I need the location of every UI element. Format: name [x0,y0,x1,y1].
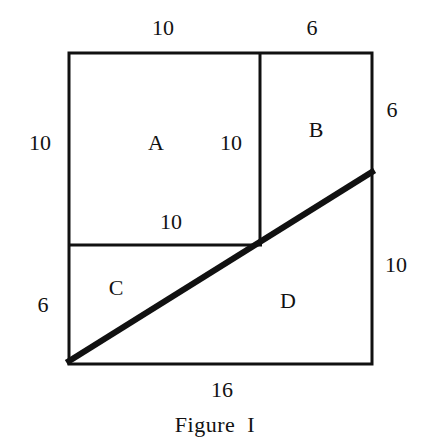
dimension-label-left-lower: 6 [38,294,49,316]
region-label-a: A [148,132,164,154]
dimension-label-right-lower: 10 [385,254,407,276]
dimension-label-right-upper: 6 [387,99,398,121]
figure-container: 10 6 10 6 6 10 10 10 16 A B C D Figure I [0,0,430,445]
dimension-label-top-right: 6 [307,17,318,39]
figure-caption: Figure I [175,412,255,438]
dimension-label-top-left: 10 [152,17,174,39]
dimension-label-bottom: 16 [211,379,233,401]
dimension-label-left-upper: 10 [29,132,51,154]
region-label-d: D [280,290,296,312]
dimension-label-interior-vertical: 10 [220,132,242,154]
dimension-label-interior-horizontal: 10 [160,211,182,233]
region-label-c: C [109,277,124,299]
region-label-b: B [309,119,324,141]
